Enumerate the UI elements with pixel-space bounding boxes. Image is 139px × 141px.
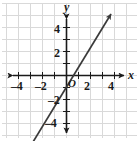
y-tick-label-neg2: –2 <box>48 94 59 106</box>
x-tick-label-pos4: 4 <box>108 80 114 92</box>
grid-lines <box>2 3 137 138</box>
y-tick-label-pos4: 4 <box>54 23 60 35</box>
origin-label: O <box>68 78 76 89</box>
y-axis-label: y <box>64 1 69 13</box>
x-tick-label-neg4: –4 <box>11 80 22 92</box>
y-tick-label-pos2: 2 <box>54 47 60 59</box>
x-tick-label-neg2: –2 <box>35 80 46 92</box>
coordinate-graph-figure: –4 –2 2 4 4 2 –2 –4 O y x <box>0 0 139 141</box>
x-axis-label: x <box>128 69 134 81</box>
y-tick-label-neg4: –4 <box>45 117 56 129</box>
x-tick-label-pos2: 2 <box>84 80 90 92</box>
graph-canvas <box>0 0 139 141</box>
